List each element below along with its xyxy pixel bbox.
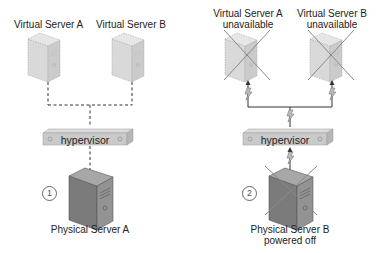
hypervisor-label-1: hypervisor [43,134,127,146]
virtual-server-b-unavailable-icon [310,33,342,82]
label-line: Physical Server B [250,224,330,235]
physical-server-a-icon [69,168,113,230]
label-line: powered off [250,235,330,246]
diagram-canvas [0,0,382,253]
label-line: Virtual Server A [210,8,286,19]
virtual-server-a-unavailable-label: Virtual Server A unavailable [210,8,286,30]
virtual-server-a-label: Virtual Server A [14,19,82,30]
virtual-server-a-icon [28,33,60,82]
physical-server-a-label: Physical Server A [50,224,130,235]
virtual-server-b-label: Virtual Server B [96,19,166,30]
physical-server-b-icon [269,168,313,230]
virtual-link-dashed [48,82,132,175]
virtual-server-b-unavailable-label: Virtual Server B unavailable [294,8,370,30]
label-line: unavailable [294,19,370,30]
virtual-server-b-icon [112,33,144,82]
label-line: Virtual Server B [294,8,370,19]
label-line: unavailable [210,19,286,30]
scenario-number-2: 2 [242,186,257,201]
virtual-server-a-unavailable-icon [225,33,257,82]
hypervisor-label-2: hypervisor [243,134,327,146]
scenario-number-1: 1 [42,186,57,201]
physical-server-b-label: Physical Server B powered off [250,224,330,246]
